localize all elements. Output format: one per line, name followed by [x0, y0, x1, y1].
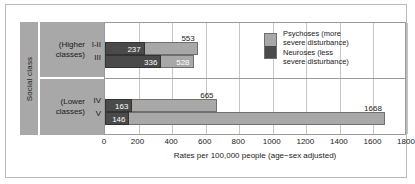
- bar-iii-neuroses: 336: [105, 55, 161, 68]
- x-axis-label: Rates per 100,000 people (age−sex adjust…: [104, 151, 406, 160]
- legend-label-psychoses: Psychoses (more severe disturbance): [283, 29, 349, 47]
- x-tick-1200: 1200: [296, 137, 314, 146]
- row-label-iv: IV: [93, 96, 101, 106]
- group-lower-label: (Lower classes): [43, 97, 85, 117]
- x-tick-400: 400: [164, 137, 177, 146]
- y-axis-title-band: Social class: [20, 22, 38, 135]
- legend-swatch-psychoses: [265, 34, 276, 46]
- bar-value-label: 528: [176, 57, 189, 66]
- bar-value-label: 163: [115, 101, 128, 110]
- legend-swatch-neuroses: [265, 46, 276, 58]
- row-label-iii: III: [94, 53, 101, 63]
- bar-value-label: 237: [127, 44, 140, 53]
- bar-i-ii-neuroses: 237: [105, 42, 145, 55]
- legend-swatch: [264, 33, 277, 59]
- bar-value-label: 1668: [364, 104, 382, 113]
- x-tick-0: 0: [102, 137, 106, 146]
- group-higher-classes: (Higher classes) I-II III: [40, 22, 104, 77]
- legend: Psychoses (more severe disturbance) Neur…: [264, 27, 392, 67]
- x-tick-600: 600: [198, 137, 211, 146]
- x-tick-800: 800: [232, 137, 245, 146]
- row-label-i-ii: I-II: [92, 40, 101, 50]
- chart-frame: Social class (Higher classes) I-II III (…: [5, 4, 407, 178]
- x-tick-1600: 1600: [364, 137, 382, 146]
- bar-value-label: 553: [181, 34, 194, 43]
- bar-value-label: 146: [112, 114, 125, 123]
- row-label-v: V: [96, 109, 101, 119]
- x-tick-1400: 1400: [330, 137, 348, 146]
- gridline-1800: [407, 23, 408, 134]
- x-tick-200: 200: [131, 137, 144, 146]
- legend-label-neuroses: Neuroses (less severe disturbance): [283, 48, 349, 66]
- bar-v-neuroses: 146: [105, 112, 129, 125]
- x-tick-1000: 1000: [263, 137, 281, 146]
- group-divider: [105, 78, 405, 79]
- group-higher-label: (Higher classes): [43, 40, 85, 60]
- x-tick-1800: 1800: [397, 137, 415, 146]
- bar-iv-neuroses: 163: [105, 99, 132, 112]
- y-axis-title: Social class: [25, 56, 34, 101]
- bar-value-label: 665: [200, 91, 213, 100]
- group-lower-classes: (Lower classes) IV V: [40, 79, 104, 135]
- bar-v-psychoses: [105, 112, 385, 125]
- bar-value-label: 336: [144, 57, 157, 66]
